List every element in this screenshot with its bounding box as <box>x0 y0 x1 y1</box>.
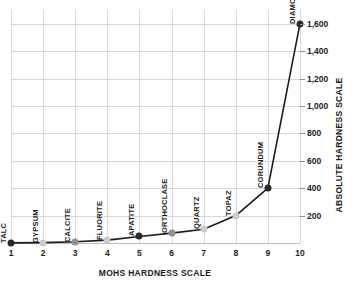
mineral-label-diamond: DIAMOND <box>288 0 297 24</box>
y-tick-800: 800 <box>307 128 321 138</box>
data-point-marker <box>200 226 207 233</box>
mineral-label-orthoclase: ORTHOCLASE <box>160 179 169 234</box>
y-tick-mark <box>300 216 305 217</box>
data-point-marker <box>104 237 111 244</box>
x-axis-line <box>11 243 300 244</box>
series-line <box>11 24 300 243</box>
data-point-marker <box>136 233 143 240</box>
y-tick-mark <box>300 133 305 134</box>
mineral-label-topaz: TOPAZ <box>224 190 233 216</box>
y-tick-400: 400 <box>307 183 321 193</box>
y-tick-mark <box>300 51 305 52</box>
y-tick-mark <box>300 106 305 107</box>
mineral-label-quartz: QUARTZ <box>192 197 201 229</box>
y-tick-mark <box>300 24 305 25</box>
data-point-marker <box>232 212 239 219</box>
data-point-marker <box>40 239 47 246</box>
x-tick-3: 3 <box>73 248 78 258</box>
x-tick-8: 8 <box>233 248 238 258</box>
x-tick-4: 4 <box>105 248 110 258</box>
mineral-label-fluorite: FLUORITE <box>95 201 104 240</box>
mineral-label-corundum: CORUNDUM <box>256 142 265 188</box>
y-tick-1600: 1,600 <box>307 19 328 29</box>
gridline-vertical <box>300 10 301 243</box>
x-tick-1: 1 <box>9 248 14 258</box>
y-tick-mark <box>300 188 305 189</box>
mineral-label-gypsum: GYPSUM <box>31 209 40 243</box>
data-point-marker <box>264 185 271 192</box>
x-tick-10: 10 <box>295 248 304 258</box>
hardness-curve <box>11 10 300 243</box>
y-tick-mark <box>300 161 305 162</box>
mineral-label-apatite: APATITE <box>127 204 136 236</box>
y-tick-mark <box>300 79 305 80</box>
x-tick-2: 2 <box>41 248 46 258</box>
x-tick-5: 5 <box>137 248 142 258</box>
y-tick-1400: 1,400 <box>307 46 328 56</box>
mineral-label-talc: TALC <box>0 223 8 243</box>
y-tick-1000: 1,000 <box>307 101 328 111</box>
x-tick-6: 6 <box>169 248 174 258</box>
data-point-marker <box>168 230 175 237</box>
x-tick-9: 9 <box>266 248 271 258</box>
y-tick-600: 600 <box>307 156 321 166</box>
y-tick-1200: 1,200 <box>307 74 328 84</box>
y-axis-title-text: ABSOLUTE HARDNESS SCALE <box>334 77 344 212</box>
data-point-marker <box>8 239 15 246</box>
x-tick-7: 7 <box>201 248 206 258</box>
mohs-hardness-chart: TALCGYPSUMCALCITEFLUORITEAPATITEORTHOCLA… <box>0 0 359 289</box>
y-axis-title: ABSOLUTE HARDNESS SCALE <box>331 0 347 289</box>
data-point-marker <box>72 238 79 245</box>
x-axis-title: MOHS HARDNESS SCALE <box>0 268 310 278</box>
y-tick-200: 200 <box>307 211 321 221</box>
mineral-label-calcite: CALCITE <box>63 208 72 242</box>
